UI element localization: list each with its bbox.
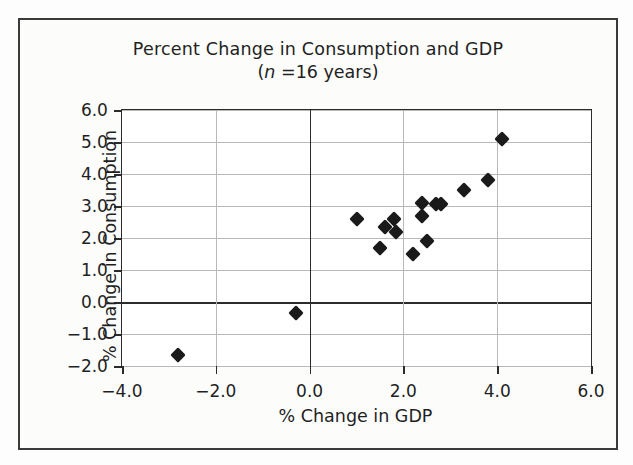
data-point <box>405 246 421 262</box>
x-axis-title: % Change in GDP <box>121 406 590 426</box>
x-axis-tick <box>591 366 593 374</box>
gridline-horizontal <box>122 366 591 367</box>
gridline-horizontal <box>122 110 591 111</box>
data-point <box>349 211 365 227</box>
x-axis-tick <box>403 366 405 374</box>
gridline-horizontal <box>122 238 591 239</box>
gridline-vertical <box>403 110 404 366</box>
gridline-horizontal <box>122 334 591 335</box>
figure-frame: Percent Change in Consumption and GDP (n… <box>18 18 618 450</box>
data-point <box>288 305 304 321</box>
data-point <box>372 240 388 256</box>
plot-area: −2.0−1.00.01.02.03.04.05.06.0−4.0−2.00.0… <box>121 109 592 367</box>
gridline-horizontal <box>122 206 591 207</box>
gridline-vertical <box>216 110 217 366</box>
x-axis-tick <box>310 366 312 374</box>
x-axis-tick-label: 4.0 <box>484 381 511 401</box>
gridline-horizontal <box>122 142 591 143</box>
gridline-horizontal <box>122 174 591 175</box>
x-axis-zero-line <box>310 110 312 366</box>
chart-subtitle: (n =16 years) <box>20 61 616 85</box>
x-axis-tick <box>497 366 499 374</box>
x-axis-tick-label: 6.0 <box>577 381 604 401</box>
gridline-vertical <box>497 110 498 366</box>
x-axis-tick-label: 0.0 <box>296 381 323 401</box>
subtitle-suffix: =16 years) <box>275 62 378 82</box>
y-axis-zero-line <box>122 302 591 304</box>
data-point <box>457 182 473 198</box>
x-axis-tick <box>216 366 218 374</box>
screenshot-root: Percent Change in Consumption and GDP (n… <box>0 0 633 465</box>
subtitle-italic-n: n <box>264 62 275 82</box>
x-axis-tick-label: −2.0 <box>195 381 236 401</box>
data-point <box>170 347 186 363</box>
gridline-horizontal <box>122 270 591 271</box>
data-point <box>419 233 435 249</box>
y-axis-title: % Change in Consumption <box>100 96 120 396</box>
x-axis-tick <box>122 366 124 374</box>
data-point <box>414 208 430 224</box>
x-axis-tick-label: 2.0 <box>390 381 417 401</box>
chart-title: Percent Change in Consumption and GDP <box>20 38 616 62</box>
